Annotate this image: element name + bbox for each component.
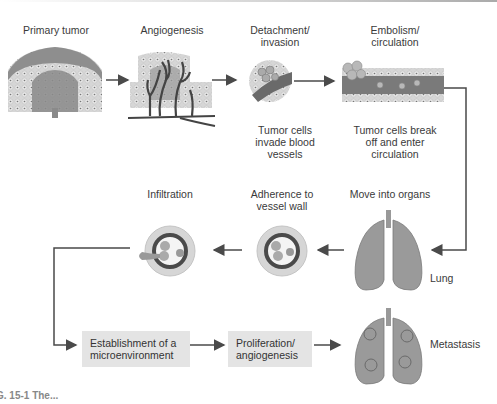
caption-embolism: Tumor cells break off and enter circulat… (340, 124, 450, 160)
box-microenvironment: Establishment of a microenvironment (82, 331, 190, 367)
label-adherence: Adherence to vessel wall (240, 188, 324, 212)
embolism-illustration (342, 61, 444, 102)
label-detachment: Detachment/ invasion (240, 24, 320, 48)
caption-detachment: Tumor cells invade blood vessels (240, 124, 330, 160)
label-infiltration: Infiltration (130, 188, 210, 200)
adherence-illustration (257, 226, 307, 276)
figure-caption-fragment: G. 15-1 The... (0, 390, 116, 402)
label-embolism: Embolism/ circulation (355, 24, 435, 48)
lung-illustration (355, 210, 422, 290)
detachment-illustration (249, 60, 292, 102)
box-proliferation: Proliferation/ angiogenesis (228, 331, 312, 367)
label-metastasis: Metastasis (430, 338, 490, 350)
label-move-into-organs: Move into organs (340, 188, 440, 200)
metastasis-lung-illustration (355, 308, 422, 384)
label-lung: Lung (430, 272, 460, 284)
primary-tumor-illustration (8, 47, 102, 118)
label-primary-tumor: Primary tumor (6, 24, 106, 36)
label-angiogenesis: Angiogenesis (122, 24, 222, 36)
angiogenesis-illustration (128, 52, 215, 126)
infiltration-illustration (139, 226, 195, 276)
